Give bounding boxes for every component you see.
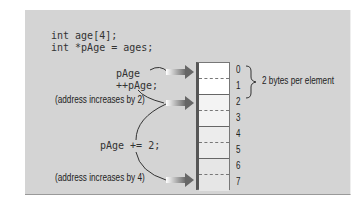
arrow-icon — [166, 173, 194, 187]
arrow-icon — [166, 96, 194, 110]
diagram-arrows — [0, 0, 364, 221]
brace-icon — [246, 66, 256, 98]
arrow-icon — [166, 65, 194, 79]
